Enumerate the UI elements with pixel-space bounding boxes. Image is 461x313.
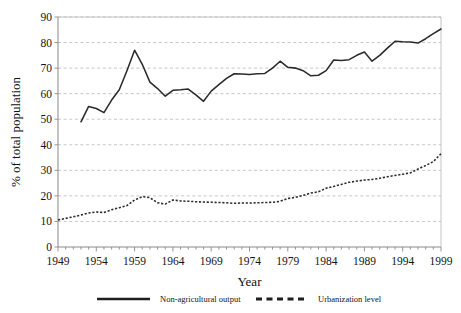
series-line-urbanization-level [58, 154, 441, 220]
x-tick-label-1999: 1999 [430, 255, 453, 267]
x-tick-label-1989: 1989 [353, 255, 376, 267]
y-tick-label-90: 90 [41, 11, 53, 23]
gridlines-group [58, 17, 441, 221]
x-tick-label-1974: 1974 [238, 255, 261, 267]
y-tick-label-50: 50 [41, 113, 53, 125]
y-tick-label-10: 10 [41, 215, 53, 227]
x-tick-label-1959: 1959 [123, 255, 146, 267]
y-axis-title: % of total population [8, 76, 23, 187]
x-tick-label-1949: 1949 [47, 255, 70, 267]
x-tick-label-1969: 1969 [200, 255, 223, 267]
x-tick-label-1979: 1979 [276, 255, 299, 267]
chart-container: 0102030405060708090 19491954195919641969… [0, 0, 461, 313]
x-axis-title: Year [238, 274, 263, 289]
y-tick-label-80: 80 [41, 37, 53, 49]
x-tick-label-1964: 1964 [161, 255, 184, 267]
x-tick-label-1984: 1984 [315, 255, 338, 267]
y-tick-label-20: 20 [41, 190, 53, 202]
legend-label-non-agricultural-output: Non-agricultural output [160, 294, 241, 304]
line-chart: 0102030405060708090 19491954195919641969… [0, 0, 461, 313]
data-series-group [58, 29, 441, 220]
x-tick-label-1994: 1994 [391, 255, 414, 267]
y-axis-tick-group: 0102030405060708090 [41, 11, 59, 253]
chart-legend: Non-agricultural output Urbanization lev… [97, 294, 382, 304]
y-tick-label-40: 40 [41, 139, 53, 151]
x-axis-tick-group: 1949195419591964196919741979198419891994… [47, 247, 453, 267]
legend-label-urbanization-level: Urbanization level [318, 294, 382, 304]
y-tick-label-0: 0 [46, 241, 52, 253]
y-tick-label-70: 70 [41, 62, 53, 74]
x-tick-label-1954: 1954 [85, 255, 108, 267]
y-tick-label-60: 60 [41, 88, 53, 100]
y-tick-label-30: 30 [41, 164, 53, 176]
